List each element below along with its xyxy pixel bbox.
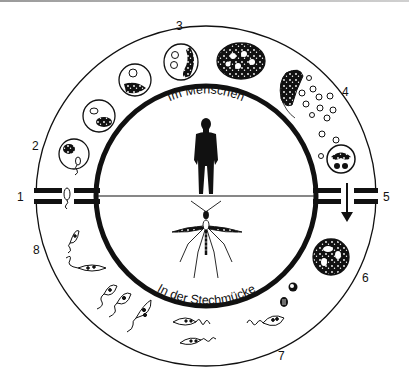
stage-number-4: 4 — [342, 85, 349, 99]
gamete-icon — [280, 283, 298, 308]
malaria-cycle-diagram: Im Menschen In der Stechmücke 1 2 3 4 5 … — [0, 0, 409, 380]
liver-cell-icon — [59, 139, 89, 175]
left-transmission-bars — [30, 188, 100, 209]
schizont-cell-icon — [217, 43, 265, 79]
stage-number-2: 2 — [32, 139, 39, 153]
ookinete-icons — [173, 316, 284, 345]
blood-cell-2-icon — [119, 64, 151, 96]
blood-cell-3-icon — [164, 44, 198, 80]
down-arrow-icon — [341, 183, 353, 222]
stage-number-7: 7 — [278, 349, 285, 363]
stage-number-5: 5 — [383, 190, 390, 204]
oocyst-icon — [313, 239, 349, 275]
stage-number-8: 8 — [33, 243, 40, 257]
stage-number-3: 3 — [176, 19, 183, 33]
blood-cell-1-icon — [83, 100, 115, 132]
stage-number-1: 1 — [17, 190, 24, 204]
stage-number-6: 6 — [362, 271, 369, 285]
gametocyte-cell-icon — [327, 145, 355, 173]
